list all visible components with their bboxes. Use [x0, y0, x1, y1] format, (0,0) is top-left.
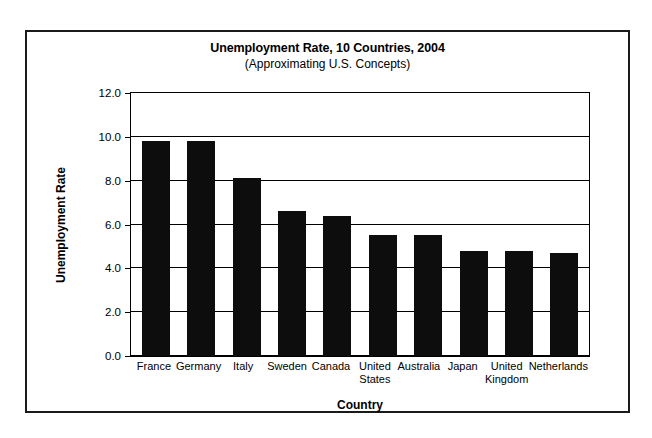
y-axis-tick-label: 10.0 — [99, 131, 121, 143]
bar-slot — [360, 93, 405, 356]
bar[interactable] — [460, 251, 488, 356]
chart-title: Unemployment Rate, 10 Countries, 2004 — [27, 40, 628, 56]
bar-slot — [269, 93, 314, 356]
bar-slot — [133, 93, 178, 356]
x-axis-tick-label: Italy — [221, 360, 265, 386]
x-axis-tick-label: United Kingdom — [485, 360, 529, 386]
bar[interactable] — [187, 141, 215, 356]
plot-area: 0.02.04.06.08.010.012.0 — [130, 92, 590, 357]
bar[interactable] — [550, 253, 578, 356]
bar[interactable] — [233, 178, 261, 356]
x-axis-tick-label: France — [132, 360, 176, 386]
bar[interactable] — [142, 141, 170, 356]
x-axis-tick-label: Canada — [309, 360, 353, 386]
x-axis-title: Country — [130, 398, 590, 412]
bar[interactable] — [278, 211, 306, 356]
bars-layer — [131, 93, 589, 356]
bar[interactable] — [323, 216, 351, 356]
y-axis-title: Unemployment Rate — [51, 92, 71, 357]
chart-figure-frame: Unemployment Rate, 10 Countries, 2004 (A… — [25, 30, 630, 413]
bar-slot — [178, 93, 223, 356]
y-axis-title-label: Unemployment Rate — [54, 166, 68, 282]
y-axis-tick-label: 12.0 — [99, 87, 121, 99]
bar-slot — [542, 93, 587, 356]
bar-slot — [496, 93, 541, 356]
y-axis-tick-label: 8.0 — [105, 175, 121, 187]
bar-slot — [224, 93, 269, 356]
bar-slot — [405, 93, 450, 356]
chart-title-block: Unemployment Rate, 10 Countries, 2004 (A… — [27, 40, 628, 72]
y-axis-tick — [125, 356, 131, 357]
x-axis-tick-label: Sweden — [265, 360, 309, 386]
bar-slot — [315, 93, 360, 356]
y-axis-tick-label: 0.0 — [105, 350, 121, 362]
bar[interactable] — [369, 235, 397, 356]
x-axis-tick-label: Germany — [176, 360, 221, 386]
y-axis-tick-label: 4.0 — [105, 262, 121, 274]
x-axis-tick-label: Netherlands — [529, 360, 588, 386]
bar[interactable] — [505, 251, 533, 356]
bar[interactable] — [414, 235, 442, 356]
chart-subtitle: (Approximating U.S. Concepts) — [27, 56, 628, 72]
x-axis-tick-label: Australia — [397, 360, 441, 386]
x-axis-tick-label: United States — [353, 360, 397, 386]
x-axis-tick-label: Japan — [441, 360, 485, 386]
bar-slot — [451, 93, 496, 356]
x-axis-tick-labels: FranceGermanyItalySwedenCanadaUnited Sta… — [130, 360, 590, 386]
y-axis-tick-label: 2.0 — [105, 306, 121, 318]
y-axis-tick-label: 6.0 — [105, 219, 121, 231]
